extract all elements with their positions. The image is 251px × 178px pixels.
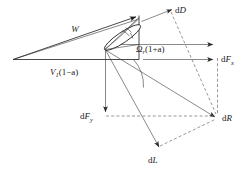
label-resultant: dR	[222, 113, 233, 123]
dashed-lift-to-resultant	[160, 119, 216, 146]
label-force-x: dFx	[221, 54, 234, 66]
label-lift: dL	[148, 155, 158, 165]
label-force-y: dFy	[80, 111, 93, 123]
figure-container: W V1(1−a) Ωr(1+a) dD dFx dFy dR dL	[0, 0, 251, 178]
resultant-vector	[106, 50, 216, 117]
vector-force-diagram: W V1(1−a) Ωr(1+a) dD dFx dFy dR dL	[0, 0, 251, 178]
label-axial-velocity: V1(1−a)	[50, 67, 78, 78]
dashed-drag-to-resultant	[171, 12, 216, 114]
drag-vector	[142, 10, 173, 22]
label-tangential-velocity: Ωr(1+a)	[136, 44, 165, 55]
label-drag: dD	[175, 5, 187, 15]
resultant-angle-arc	[134, 60, 144, 88]
label-relative-velocity: W	[71, 24, 80, 34]
lift-vector	[106, 50, 160, 147]
